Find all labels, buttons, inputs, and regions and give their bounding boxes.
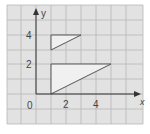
y-axis-label: y xyxy=(41,8,46,19)
origin-label: 0 xyxy=(27,100,33,111)
coordinate-grid-diagram: x y 0 2 4 2 4 xyxy=(0,0,150,134)
y-tick-4: 4 xyxy=(26,30,32,41)
x-axis-label: x xyxy=(139,97,145,107)
y-tick-2: 2 xyxy=(26,59,32,70)
x-tick-2: 2 xyxy=(63,99,69,110)
x-tick-4: 4 xyxy=(93,99,99,110)
